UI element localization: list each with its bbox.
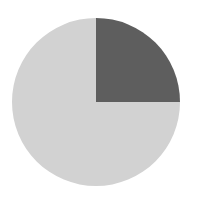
pie-slices xyxy=(12,18,180,186)
pie-chart xyxy=(0,0,199,199)
pie-slice-1 xyxy=(96,18,180,102)
